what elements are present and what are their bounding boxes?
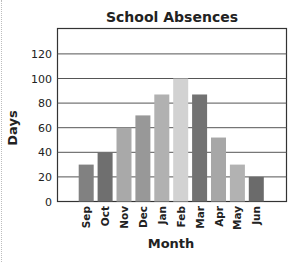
x-tick-label: Mar: [194, 205, 206, 229]
y-tick-label: 20: [38, 171, 52, 184]
x-tick-label: Nov: [118, 206, 130, 229]
bar-mar: [192, 94, 207, 201]
bar-apr: [211, 138, 226, 202]
bar-may: [230, 165, 245, 202]
chart-title: School Absences: [106, 9, 238, 25]
y-tick-label: 40: [38, 146, 52, 159]
x-tick-label: Dec: [137, 206, 149, 228]
bar-sep: [79, 165, 94, 202]
y-tick-label: 100: [31, 73, 52, 86]
y-tick-label: 80: [38, 97, 52, 110]
bar-feb: [173, 79, 188, 202]
x-tick-label: Jan: [156, 206, 168, 225]
bar-jan: [154, 94, 169, 201]
bar-nov: [117, 128, 132, 202]
x-tick-label: Apr: [213, 205, 225, 227]
bar-dec: [135, 115, 150, 201]
x-tick-label: May: [231, 206, 243, 230]
x-tick-label: Oct: [99, 206, 111, 226]
x-tick-labels: SepOctNovDecJanFebMarAprMayJun: [80, 205, 262, 230]
y-axis-label: Days: [5, 110, 20, 146]
bar-jun: [249, 177, 264, 202]
x-tick-label: Feb: [175, 206, 187, 228]
y-tick-label: 0: [45, 196, 52, 209]
gridlines: [58, 54, 287, 177]
y-tick-label: 60: [38, 122, 52, 135]
x-tick-label: Sep: [80, 206, 92, 229]
x-tick-label: Jun: [250, 206, 262, 226]
bar-chart: School Absences 020406080100120 SepOctNo…: [0, 0, 304, 262]
x-axis-label: Month: [148, 236, 195, 251]
bars: [79, 79, 264, 202]
y-tick-labels: 020406080100120: [31, 48, 52, 209]
bar-oct: [98, 152, 113, 201]
y-tick-label: 120: [31, 48, 52, 61]
